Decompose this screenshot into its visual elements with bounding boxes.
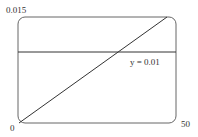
chart-plot (0, 0, 198, 137)
origin-label: 0 (10, 124, 15, 133)
y-max-label: 0.015 (6, 6, 26, 15)
hline-annotation: y = 0.01 (130, 58, 160, 67)
diagonal-line (19, 17, 167, 123)
x-max-label: 50 (181, 120, 190, 129)
